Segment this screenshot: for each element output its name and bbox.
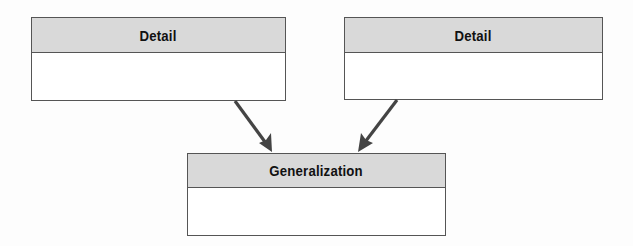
generalization-box[interactable]: Generalization: [187, 153, 446, 236]
generalization-box-title: Generalization: [270, 162, 363, 179]
arrowhead-icon: [358, 133, 373, 152]
detail-box-left[interactable]: Detail: [31, 17, 286, 101]
arrow-right-to-generalization: [358, 100, 397, 152]
arrowhead-icon: [259, 133, 272, 152]
diagram-canvas: Detail Detail Generalization: [0, 0, 633, 246]
detail-box-left-title: Detail: [140, 27, 177, 44]
detail-box-left-header: Detail: [32, 18, 285, 53]
detail-box-right-title: Detail: [455, 27, 492, 44]
arrow-left-to-generalization: [235, 101, 272, 152]
detail-box-right[interactable]: Detail: [344, 17, 603, 100]
detail-box-right-header: Detail: [345, 18, 602, 53]
generalization-box-header: Generalization: [188, 154, 445, 188]
